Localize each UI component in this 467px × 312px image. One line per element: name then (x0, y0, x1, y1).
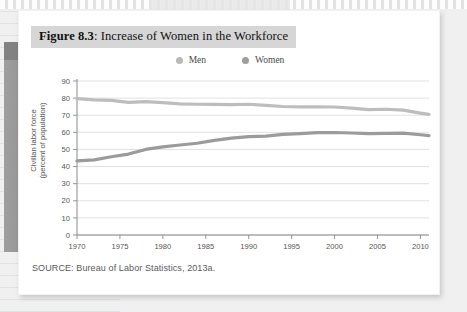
svg-text:10: 10 (62, 214, 70, 223)
svg-text:20: 20 (62, 196, 70, 205)
svg-text:2010: 2010 (412, 242, 429, 251)
figure-title-banner: Figure 8.3: Increase of Women in the Wor… (31, 26, 296, 48)
svg-text:1970: 1970 (69, 242, 86, 251)
svg-text:1980: 1980 (154, 242, 171, 251)
svg-text:90: 90 (62, 77, 70, 86)
svg-text:1985: 1985 (197, 242, 214, 251)
line-chart-svg: 0102030405060708090 19701975198019851990… (19, 69, 441, 259)
svg-text:1995: 1995 (283, 242, 300, 251)
y-axis-ticks: 0102030405060708090 (62, 77, 77, 240)
svg-text:0: 0 (66, 231, 70, 240)
source-note: SOURCE: Bureau of Labor Statistics, 2013… (32, 263, 215, 273)
svg-text:2000: 2000 (326, 242, 343, 251)
x-axis-ticks: 197019751980198519901995200020052010 (69, 235, 429, 251)
legend-swatch-men (176, 57, 183, 64)
legend-swatch-women (242, 57, 249, 64)
svg-text:2005: 2005 (369, 242, 386, 251)
figure-title-separator: : (94, 29, 101, 43)
legend-item-men: Men (176, 55, 206, 65)
figure-number: Figure 8.3 (39, 29, 94, 43)
svg-text:50: 50 (62, 145, 70, 154)
legend-item-women: Women (242, 55, 284, 65)
svg-text:80: 80 (62, 94, 70, 103)
legend-label-men: Men (189, 55, 206, 65)
chart-plot-area: Civilian labor force (percent of populat… (19, 69, 441, 259)
svg-text:40: 40 (62, 162, 70, 171)
svg-text:30: 30 (62, 179, 70, 188)
svg-text:1990: 1990 (240, 242, 257, 251)
svg-text:1975: 1975 (111, 242, 128, 251)
svg-text:70: 70 (62, 111, 70, 120)
svg-text:60: 60 (62, 128, 70, 137)
chart-legend: Men Women (19, 55, 441, 65)
chart-series-lines (77, 99, 429, 161)
figure-card: Figure 8.3: Increase of Women in the Wor… (18, 10, 440, 295)
figure-title-text: Increase of Women in the Workforce (101, 29, 288, 43)
legend-label-women: Women (255, 55, 284, 65)
